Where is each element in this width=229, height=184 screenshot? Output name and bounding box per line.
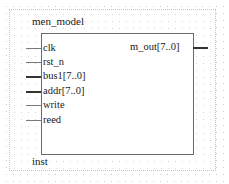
- pin-label-reed: reed: [43, 114, 61, 126]
- pin-line-reed[interactable]: [26, 120, 41, 121]
- pin-label-clk: clk: [43, 42, 56, 54]
- module-name: men_model: [32, 15, 84, 27]
- pin-label-rst-n: rst_n: [43, 56, 64, 68]
- pin-line-addr[interactable]: [26, 91, 41, 93]
- pin-line-write[interactable]: [26, 105, 41, 106]
- pin-line-bus1[interactable]: [26, 76, 41, 78]
- pin-label-m-out: m_out[7..0]: [130, 41, 180, 53]
- pin-line-rst-n[interactable]: [26, 62, 41, 63]
- pin-line-m-out[interactable]: [193, 47, 208, 49]
- instance-label: inst: [32, 155, 48, 167]
- pin-label-bus1: bus1[7..0]: [43, 70, 86, 82]
- pin-label-write: write: [43, 99, 65, 111]
- pin-line-clk[interactable]: [26, 48, 41, 49]
- pin-label-addr: addr[7..0]: [43, 85, 84, 97]
